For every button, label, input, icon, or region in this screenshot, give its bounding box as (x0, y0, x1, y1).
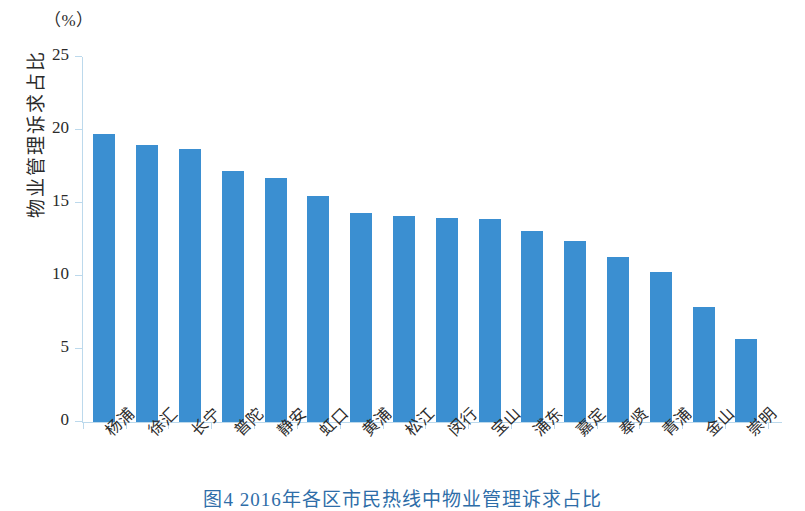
bar (607, 257, 629, 422)
y-tick-label: 25 (52, 45, 69, 65)
bar (136, 145, 158, 422)
y-tick-label: 10 (52, 264, 69, 284)
bar (693, 307, 715, 422)
y-axis-line (82, 57, 83, 422)
bar (393, 216, 415, 422)
bar (436, 218, 458, 422)
y-tick-label: 15 (52, 191, 69, 211)
y-axis-title: 物业管理诉求占比 (21, 24, 48, 244)
bar (479, 219, 501, 422)
y-tick-label: 0 (61, 410, 70, 430)
y-tick: 0 (75, 421, 82, 422)
bar (307, 196, 329, 422)
bar (350, 213, 372, 422)
bar (650, 272, 672, 422)
y-axis-unit-label: （%） (44, 6, 94, 31)
bar (265, 178, 287, 422)
bar (93, 134, 115, 422)
y-tick: 5 (75, 348, 82, 349)
plot-area: 0510152025 (82, 57, 782, 422)
bar (222, 171, 244, 422)
bar (521, 231, 543, 422)
y-tick-label: 20 (52, 118, 69, 138)
y-tick: 10 (75, 275, 82, 276)
y-tick: 20 (75, 129, 82, 130)
x-axis-labels: 杨浦徐汇长宁普陀静安虹口黄浦松江闵行宝山浦东嘉定奉贤青浦金山崇明 (82, 424, 782, 478)
figure-caption: 图4 2016年各区市民热线中物业管理诉求占比 (0, 484, 805, 511)
y-tick-label: 5 (61, 337, 70, 357)
bar (564, 241, 586, 422)
y-tick: 15 (75, 202, 82, 203)
bar (179, 149, 201, 422)
y-tick: 25 (75, 56, 82, 57)
